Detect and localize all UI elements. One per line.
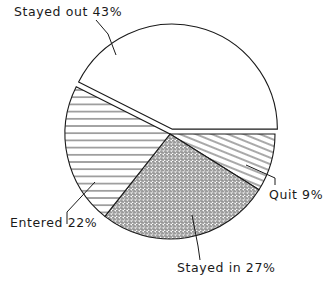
pie-chart: Stayed out 43% Entered 22% Stayed in 27%… xyxy=(0,0,332,284)
label-entered: Entered 22% xyxy=(10,215,97,230)
label-stayed-out: Stayed out 43% xyxy=(14,4,122,19)
label-quit: Quit 9% xyxy=(269,187,323,202)
label-stayed-in: Stayed in 27% xyxy=(177,260,275,275)
pie-slices xyxy=(65,24,277,239)
